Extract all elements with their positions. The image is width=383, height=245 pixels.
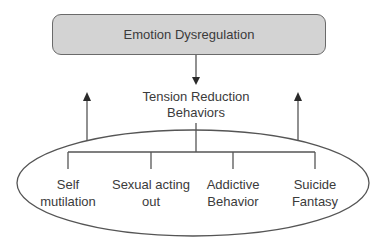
- emotion-dysregulation-box: Emotion Dysregulation: [52, 14, 326, 55]
- down-arrow: [192, 55, 200, 85]
- right-up-arrow: [294, 92, 302, 141]
- leaf-suicide-fantasy: Suicide Fantasy: [265, 176, 365, 210]
- tension-reduction-label: Tension Reduction Behaviors: [126, 89, 266, 121]
- mid-label-line2: Behaviors: [126, 105, 266, 121]
- leaf-line1: Suicide: [265, 176, 365, 193]
- root-label: Emotion Dysregulation: [124, 27, 255, 42]
- leaf-line2: Fantasy: [265, 193, 365, 210]
- mid-label-line1: Tension Reduction: [126, 89, 266, 105]
- left-up-arrow: [83, 92, 91, 141]
